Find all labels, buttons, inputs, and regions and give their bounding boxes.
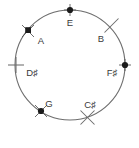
- note-circle-diagram: E A B D♯ F♯ G: [0, 0, 139, 148]
- note-label-fsharp: F♯: [107, 67, 118, 78]
- note-circle-canvas: E A B D♯ F♯ G: [0, 0, 139, 148]
- note-marker-a: [22, 25, 34, 37]
- note-marker-b: [105, 19, 119, 33]
- note-marker-csharp: [81, 111, 95, 125]
- note-marker-fsharp: [119, 59, 131, 71]
- note-label-e: E: [67, 17, 73, 28]
- note-marker-dsharp: [8, 57, 24, 73]
- note-label-a: A: [38, 35, 45, 46]
- note-label-dsharp: D♯: [26, 67, 38, 78]
- marker-dot-e: [67, 7, 73, 13]
- note-label-csharp: C♯: [84, 99, 96, 110]
- note-label-b: B: [98, 33, 104, 44]
- marker-dot-fsharp: [122, 62, 128, 68]
- marker-square-a: [25, 27, 31, 33]
- marker-dot-g: [38, 108, 44, 114]
- note-marker-e: [64, 4, 76, 16]
- note-label-g: G: [45, 98, 52, 109]
